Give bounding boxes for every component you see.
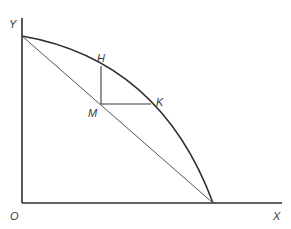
straight-chord: [22, 36, 213, 203]
y-axis-label: Y: [9, 18, 17, 30]
origin-label: O: [10, 210, 19, 222]
point-m-label: M: [88, 107, 98, 119]
diagram-svg: Y O X H M K: [0, 0, 291, 229]
x-axis-label: X: [272, 210, 281, 222]
point-k-label: K: [156, 96, 164, 108]
point-h-label: H: [97, 52, 105, 64]
diagram-canvas: Y O X H M K: [0, 0, 291, 229]
